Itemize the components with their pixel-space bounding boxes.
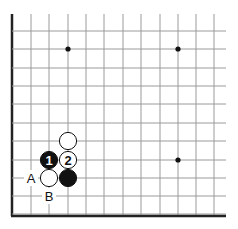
white-stone (59, 132, 76, 149)
point-marker-b: B (45, 189, 54, 204)
move-number: 2 (64, 153, 71, 168)
white-stone (40, 169, 57, 186)
star-point (175, 157, 180, 162)
board-grid (11, 14, 226, 216)
star-point (65, 46, 70, 51)
move-number: 1 (45, 153, 52, 168)
black-stone (59, 169, 76, 186)
point-marker-a: A (27, 171, 36, 186)
go-board: 12 AB (0, 0, 238, 229)
white-stone: 2 (59, 151, 76, 168)
black-stone: 1 (40, 151, 57, 168)
star-point (175, 46, 180, 51)
